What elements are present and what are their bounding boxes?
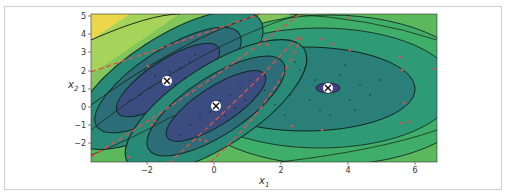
y-axis-label: x2 (67, 79, 79, 93)
x-axis-label: x1 (258, 175, 269, 189)
ytick-label: 0 (81, 103, 86, 112)
x-axis: −2 0 2 4 6 x1 (141, 162, 417, 189)
xtick-label: 6 (412, 166, 417, 175)
centroid-marker (323, 83, 333, 93)
ytick-label: 5 (81, 12, 86, 21)
ytick-label: 4 (81, 30, 86, 39)
y-axis: −2 −1 0 1 2 3 4 5 x2 (67, 12, 91, 148)
centroid-marker (211, 101, 221, 111)
chart-svg: −2 −1 0 1 2 3 4 5 x2 −2 0 2 4 6 x1 (0, 0, 508, 193)
xtick-label: −2 (141, 166, 153, 175)
xtick-label: 0 (211, 166, 216, 175)
ytick-label: 2 (81, 67, 86, 76)
ytick-label: −1 (74, 121, 86, 130)
plot-area (53, 0, 480, 193)
ytick-label: 1 (81, 85, 86, 94)
ytick-label: 3 (81, 48, 86, 57)
xtick-label: 4 (345, 166, 350, 175)
centroid-marker (162, 76, 172, 86)
ytick-label: −2 (74, 139, 86, 148)
xtick-label: 2 (278, 166, 283, 175)
